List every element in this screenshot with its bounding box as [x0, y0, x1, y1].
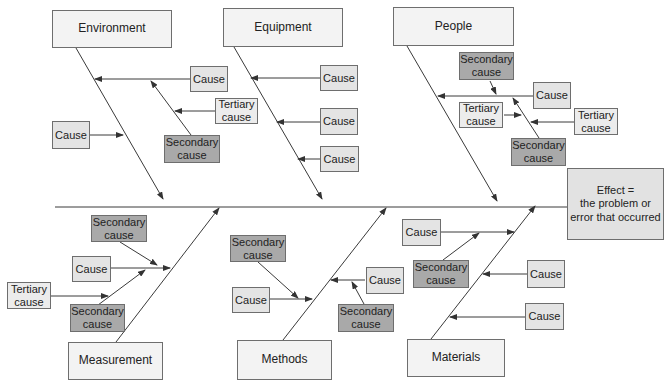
materials-secondary-cause: Secondarycause: [413, 260, 469, 288]
materials-cause-2: Cause: [527, 260, 565, 288]
equipment-cause-3: Cause: [320, 146, 359, 172]
environment-secondary-cause: Secondarycause: [164, 135, 220, 163]
materials-cause-1: Cause: [402, 219, 441, 246]
effect-line-3: error that occurred: [570, 211, 660, 224]
category-measurement: Measurement: [68, 342, 163, 380]
methods-cause-1: Cause: [232, 287, 270, 313]
category-environment: Environment: [52, 10, 172, 48]
people-secondary-cause-1: Secondarycause: [459, 52, 514, 80]
category-methods: Methods: [237, 340, 332, 380]
measurement-cause: Cause: [72, 256, 111, 282]
equipment-cause-1: Cause: [320, 65, 358, 91]
effect-box: Effect = the problem or error that occur…: [567, 168, 664, 240]
methods-cause-2: Cause: [366, 267, 404, 294]
environment-cause-1: Cause: [190, 66, 228, 92]
measurement-secondary-cause-1: Secondarycause: [91, 215, 147, 242]
category-materials: Materials: [407, 339, 505, 377]
measurement-secondary-cause-2: Secondarycause: [70, 304, 125, 332]
category-people: People: [393, 7, 514, 46]
equipment-cause-2: Cause: [320, 108, 358, 135]
methods-secondary-cause-2: Secondarycause: [338, 304, 394, 332]
effect-line-2: the problem or: [580, 197, 651, 210]
effect-line-1: Effect =: [597, 184, 634, 197]
environment-cause-2: Cause: [52, 121, 90, 149]
people-cause: Cause: [533, 82, 571, 109]
category-equipment: Equipment: [223, 8, 343, 47]
materials-cause-3: Cause: [525, 303, 564, 330]
people-secondary-cause-2: Secondarycause: [511, 138, 566, 166]
environment-tertiary-cause: Tertiarycause: [215, 98, 258, 124]
measurement-tertiary-cause: Tertiarycause: [7, 282, 51, 309]
methods-secondary-cause-1: Secondarycause: [230, 235, 286, 262]
people-tertiary-cause-2: Tertiarycause: [574, 108, 618, 135]
people-tertiary-cause-1: Tertiarycause: [459, 102, 503, 128]
